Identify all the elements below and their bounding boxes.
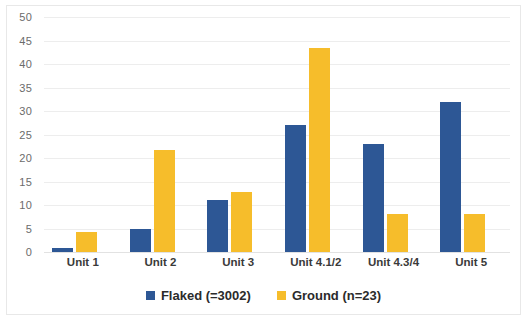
plot-area — [44, 17, 510, 252]
bar-group — [355, 17, 433, 252]
bar-ground[interactable] — [309, 48, 330, 252]
y-axis-tick-label: 10 — [19, 199, 32, 211]
bar-group — [432, 17, 510, 252]
y-axis-tick-label: 25 — [19, 129, 32, 141]
x-axis-label: Unit 1 — [44, 256, 122, 268]
y-axis-tick-label: 20 — [19, 152, 32, 164]
gridline — [44, 252, 510, 253]
x-axis-label: Unit 3 — [199, 256, 277, 268]
legend-label: Flaked (=3002) — [161, 288, 251, 303]
y-axis-tick-label: 15 — [19, 176, 32, 188]
bar-flaked[interactable] — [52, 248, 73, 252]
bar-flaked[interactable] — [440, 102, 461, 252]
bar-group — [277, 17, 355, 252]
legend-swatch-icon — [146, 291, 155, 300]
bar-flaked[interactable] — [207, 200, 228, 252]
x-axis-label: Unit 2 — [122, 256, 200, 268]
y-axis-tick-label: 45 — [19, 35, 32, 47]
legend-item[interactable]: Flaked (=3002) — [146, 288, 251, 303]
bar-group — [44, 17, 122, 252]
y-axis-tick-label: 35 — [19, 82, 32, 94]
bar-ground[interactable] — [464, 214, 485, 252]
legend-item[interactable]: Ground (n=23) — [277, 288, 381, 303]
bar-group — [199, 17, 277, 252]
bar-flaked[interactable] — [363, 144, 384, 252]
y-axis: 50454035302520151050 — [0, 17, 40, 252]
bar-chart: 50454035302520151050 Unit 1Unit 2Unit 3U… — [0, 0, 527, 325]
y-axis-tick-label: 30 — [19, 105, 32, 117]
x-axis-label: Unit 4.1/2 — [277, 256, 355, 268]
legend-swatch-icon — [277, 291, 286, 300]
chart-legend: Flaked (=3002)Ground (n=23) — [0, 288, 527, 303]
y-axis-tick-label: 50 — [19, 11, 32, 23]
bar-flaked[interactable] — [130, 229, 151, 253]
bar-ground[interactable] — [231, 192, 252, 252]
x-axis-label: Unit 5 — [432, 256, 510, 268]
bar-group — [122, 17, 200, 252]
y-axis-tick-label: 5 — [26, 223, 32, 235]
y-axis-tick-label: 40 — [19, 58, 32, 70]
x-axis: Unit 1Unit 2Unit 3Unit 4.1/2Unit 4.3/4Un… — [44, 256, 510, 276]
y-axis-tick-label: 0 — [26, 246, 32, 258]
bar-flaked[interactable] — [285, 125, 306, 252]
legend-label: Ground (n=23) — [292, 288, 381, 303]
bars-layer — [44, 17, 510, 252]
bar-ground[interactable] — [154, 150, 175, 252]
bar-ground[interactable] — [387, 214, 408, 252]
bar-ground[interactable] — [76, 232, 97, 252]
x-axis-label: Unit 4.3/4 — [355, 256, 433, 268]
